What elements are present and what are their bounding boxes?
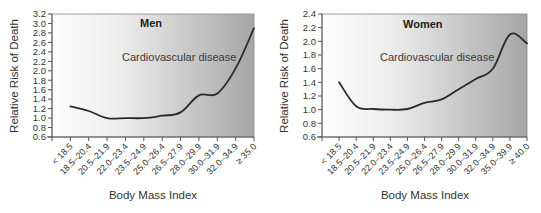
plot-area-women bbox=[322, 14, 527, 137]
figure-canvas: 0.60.81.01.21.41.61.82.02.22.42.62.83.03… bbox=[0, 0, 541, 213]
x-category-label: ≥ 35.0 bbox=[234, 141, 259, 166]
y-tick-label: 1.8 bbox=[33, 75, 46, 86]
y-tick-label: 3.0 bbox=[33, 18, 46, 29]
y-tick-label: 3.2 bbox=[33, 8, 46, 19]
y-tick-label: 1.2 bbox=[303, 90, 316, 101]
panel-title-men: Men bbox=[140, 17, 162, 29]
x-axis-title-women: Body Mass Index bbox=[381, 189, 469, 201]
y-tick-label: 1.6 bbox=[33, 84, 46, 95]
y-tick-label: 0.6 bbox=[303, 131, 316, 142]
y-tick-label: 2.4 bbox=[303, 8, 316, 19]
plot-area-men bbox=[52, 14, 254, 137]
y-tick-label: 1.2 bbox=[33, 103, 46, 114]
y-tick-label: 0.6 bbox=[33, 131, 46, 142]
chart-men: 0.60.81.01.21.41.61.82.02.22.42.62.83.03… bbox=[8, 8, 258, 201]
y-axis-title-men: Relative Risk of Death bbox=[8, 19, 20, 133]
y-tick-label: 2.2 bbox=[303, 22, 316, 33]
y-tick-label: 2.8 bbox=[33, 27, 46, 38]
y-tick-label: 1.8 bbox=[303, 49, 316, 60]
y-tick-label: 1.4 bbox=[303, 77, 316, 88]
y-axis-title-women: Relative Risk of Death bbox=[278, 19, 290, 133]
y-tick-label: 2.2 bbox=[33, 56, 46, 67]
y-tick-label: 2.0 bbox=[303, 36, 316, 47]
y-tick-label: 0.8 bbox=[33, 122, 46, 133]
y-tick-label: 2.6 bbox=[33, 37, 46, 48]
y-tick-label: 1.6 bbox=[303, 63, 316, 74]
y-tick-label: 1.0 bbox=[33, 112, 46, 123]
y-tick-label: 2.0 bbox=[33, 65, 46, 76]
annotation-men: Cardiovascular disease bbox=[122, 51, 236, 63]
y-tick-label: 0.8 bbox=[303, 118, 316, 129]
y-tick-label: 1.4 bbox=[33, 93, 46, 104]
annotation-women: Cardiovascular disease bbox=[380, 51, 494, 63]
figure-root: 0.60.81.01.21.41.61.82.02.22.42.62.83.03… bbox=[0, 0, 541, 213]
x-axis-title-men: Body Mass Index bbox=[109, 189, 197, 201]
y-axis-ticks-men: 0.60.81.01.21.41.61.82.02.22.42.62.83.03… bbox=[33, 8, 52, 142]
x-axis-ticks-men: < 18.518.5–20.420.5–21.922.0–23.423.5–24… bbox=[50, 137, 259, 177]
chart-women: 0.60.81.01.21.41.61.82.02.22.4 < 18.518.… bbox=[278, 8, 531, 201]
panel-title-women: Women bbox=[403, 18, 443, 30]
y-axis-ticks-women: 0.60.81.01.21.41.61.82.02.22.4 bbox=[303, 8, 322, 142]
y-tick-label: 1.0 bbox=[303, 104, 316, 115]
x-axis-ticks-women: < 18.518.5–20.420.5–21.922.0–23.423.5–24… bbox=[319, 137, 532, 177]
y-tick-label: 2.4 bbox=[33, 46, 46, 57]
